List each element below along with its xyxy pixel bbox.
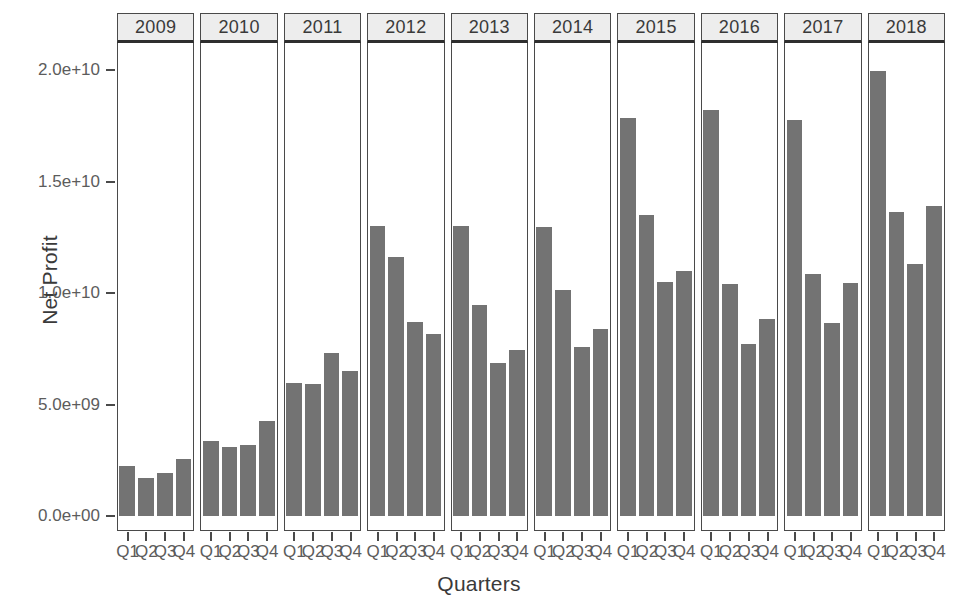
bar-2015-Q1 [620,118,636,516]
bar-2010-Q2 [222,447,238,516]
panel-body [701,43,778,531]
bar-2014-Q3 [574,347,590,516]
x-axis-tick-mark [896,532,898,541]
bar-series [535,43,610,530]
x-axis-tick-label: Q4 [338,542,364,562]
x-axis-tick-mark [479,532,481,541]
panel-header-label: 2011 [284,13,361,43]
bar-2012-Q2 [388,257,404,516]
panel-header-label: 2012 [367,13,444,43]
x-axis-tick-mark [229,532,231,541]
panel-2013: 2013 [451,13,528,531]
bar-2016-Q4 [759,319,775,516]
y-axis-tick-mark [106,292,115,294]
bar-2012-Q3 [407,322,423,516]
x-axis-tick-mark [600,532,602,541]
panel-2016: 2016 [701,13,778,531]
y-axis-title-wrap: Net Profit [0,0,36,560]
bar-2009-Q2 [138,478,154,516]
bar-2009-Q4 [176,459,192,516]
x-axis-tick-mark [710,532,712,541]
y-axis-tick-label: 1.5e+10 [22,172,100,192]
panel-header-label: 2017 [784,13,861,43]
y-axis-tick-mark [106,515,115,517]
bar-2013-Q2 [472,305,488,516]
y-axis-tick-mark [106,69,115,71]
panel-2009: 2009 [117,13,194,531]
y-axis-tick-label: 0.0e+00 [22,506,100,526]
x-axis-tick-mark [414,532,416,541]
panel-2018: 2018 [868,13,945,531]
panel-body [200,43,277,531]
bar-2018-Q1 [870,71,886,516]
panel-header-label: 2013 [451,13,528,43]
x-axis-title: Quarters [0,572,958,596]
x-axis-tick-mark [516,532,518,541]
x-axis-tick-mark [183,532,185,541]
x-axis-tick-mark [544,532,546,541]
bar-series [452,43,527,530]
panel-body [117,43,194,531]
bar-2014-Q1 [536,227,552,516]
x-axis-tick-label: Q4 [504,542,530,562]
bar-2011-Q4 [342,371,358,516]
x-axis-tick-mark [831,532,833,541]
panel-header-label: 2009 [117,13,194,43]
bar-2018-Q3 [907,264,923,516]
x-axis-tick-mark [293,532,295,541]
bar-2010-Q1 [203,441,219,516]
bar-series [285,43,360,530]
bar-2015-Q4 [676,271,692,516]
bar-2014-Q2 [555,290,571,516]
panel-2015: 2015 [617,13,694,531]
panel-body [451,43,528,531]
bar-2013-Q3 [490,363,506,516]
panel-body [617,43,694,531]
x-axis-tick-mark [266,532,268,541]
panel-2010: 2010 [200,13,277,531]
x-axis-tick-mark [581,532,583,541]
x-axis-tick-label: Q4 [671,542,697,562]
y-axis-tick-mark [106,181,115,183]
panel-body [868,43,945,531]
x-axis-tick-label: Q4 [171,542,197,562]
bar-2009-Q3 [157,473,173,516]
panel-header-label: 2014 [534,13,611,43]
x-axis-tick-mark [767,532,769,541]
x-axis-tick-label: Q4 [755,542,781,562]
panel-header-label: 2016 [701,13,778,43]
x-axis-tick-mark [312,532,314,541]
panel-body [534,43,611,531]
y-axis-tick-mark [106,404,115,406]
bar-series [118,43,193,530]
panel-2011: 2011 [284,13,361,531]
x-axis-tick-mark [164,532,166,541]
x-axis-tick-mark [729,532,731,541]
x-axis-tick-mark [247,532,249,541]
x-axis-tick-mark [933,532,935,541]
x-axis-tick-mark [813,532,815,541]
x-axis-tick-mark [396,532,398,541]
x-axis-tick-mark [664,532,666,541]
x-axis-tick-mark [145,532,147,541]
x-axis-tick-mark [210,532,212,541]
x-axis-tick-mark [915,532,917,541]
y-axis-tick-label: 5.0e+09 [22,395,100,415]
bar-series [368,43,443,530]
panel-header-label: 2010 [200,13,277,43]
bar-2012-Q4 [426,334,442,516]
bar-series [785,43,860,530]
bar-series [702,43,777,530]
x-axis-tick-mark [850,532,852,541]
bar-2016-Q3 [741,344,757,516]
bar-2018-Q4 [926,206,942,516]
x-axis-tick-mark [377,532,379,541]
bar-series [618,43,693,530]
panel-2014: 2014 [534,13,611,531]
x-axis-tick-label: Q4 [254,542,280,562]
x-axis-tick-mark [794,532,796,541]
x-axis-tick-label: Q4 [421,542,447,562]
bar-2017-Q2 [805,274,821,516]
x-axis-tick-mark [627,532,629,541]
facet-bar-chart: Net Profit 0.0e+005.0e+091.0e+101.5e+102… [0,0,958,606]
